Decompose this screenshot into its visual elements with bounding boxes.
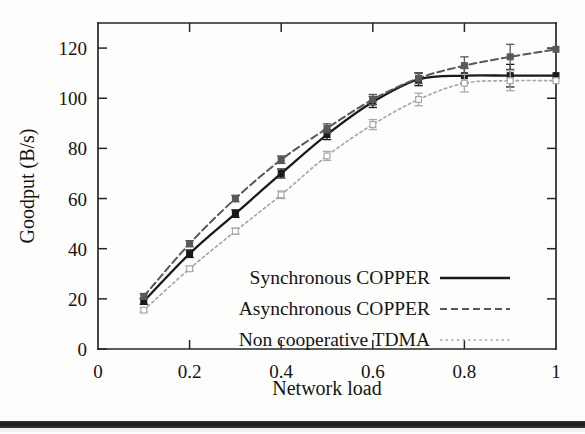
y-axis-tick-labels: 020406080100120 bbox=[59, 38, 88, 360]
data-point-marker bbox=[187, 241, 193, 247]
page-edge-shadow bbox=[0, 428, 585, 432]
data-point-marker bbox=[370, 97, 376, 103]
data-point-marker bbox=[141, 307, 147, 313]
data-point-marker bbox=[507, 54, 513, 60]
data-point-marker bbox=[507, 78, 513, 84]
y-tick-label: 20 bbox=[68, 289, 87, 310]
page-bottom-bar bbox=[0, 421, 585, 428]
data-point-marker bbox=[370, 122, 376, 128]
data-point-marker bbox=[553, 78, 559, 84]
chart-legend: Synchronous COPPERAsynchronous COPPERNon… bbox=[239, 267, 510, 350]
data-point-marker bbox=[233, 211, 239, 217]
legend-entry-2: Asynchronous COPPER bbox=[239, 298, 510, 319]
legend-entry-3: Non cooperative TDMA bbox=[239, 329, 510, 350]
data-point-marker bbox=[278, 171, 284, 177]
data-point-marker bbox=[233, 228, 239, 234]
y-axis-title: Goodput (B/s) bbox=[16, 129, 39, 244]
data-point-marker bbox=[324, 125, 330, 131]
chart-svg: 020406080100120 00.20.40.60.81 Synchrono… bbox=[0, 0, 585, 400]
y-tick-label: 0 bbox=[78, 339, 88, 360]
data-point-marker bbox=[462, 80, 468, 86]
x-tick-label: 0.8 bbox=[453, 361, 477, 382]
data-point-marker bbox=[416, 75, 422, 81]
y-tick-label: 120 bbox=[59, 38, 88, 59]
data-point-marker bbox=[278, 192, 284, 198]
x-axis-title: Network load bbox=[272, 377, 381, 399]
chart-figure: 020406080100120 00.20.40.60.81 Synchrono… bbox=[0, 0, 585, 400]
legend-label: Synchronous COPPER bbox=[250, 267, 430, 288]
data-point-marker bbox=[141, 293, 147, 299]
y-tick-label: 100 bbox=[59, 88, 88, 109]
legend-label: Non cooperative TDMA bbox=[239, 329, 430, 350]
x-tick-label: 0.2 bbox=[178, 361, 202, 382]
data-point-marker bbox=[187, 251, 193, 257]
x-tick-label: 1 bbox=[551, 361, 561, 382]
series-2 bbox=[140, 44, 559, 299]
data-point-marker bbox=[233, 196, 239, 202]
legend-label: Asynchronous COPPER bbox=[239, 298, 430, 319]
series-line bbox=[144, 49, 556, 296]
y-tick-label: 60 bbox=[68, 189, 87, 210]
data-point-marker bbox=[462, 63, 468, 69]
x-tick-label: 0 bbox=[93, 361, 103, 382]
data-point-marker bbox=[187, 266, 193, 272]
data-point-marker bbox=[278, 157, 284, 163]
data-point-marker bbox=[416, 97, 422, 103]
legend-entry-1: Synchronous COPPER bbox=[250, 267, 510, 288]
y-tick-label: 80 bbox=[68, 138, 87, 159]
data-point-marker bbox=[553, 46, 559, 52]
data-point-marker bbox=[324, 153, 330, 159]
y-tick-label: 40 bbox=[68, 239, 87, 260]
